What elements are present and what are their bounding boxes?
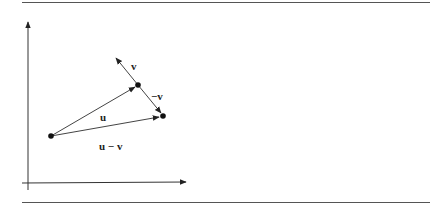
- label-v: v: [131, 60, 137, 72]
- label-u: u: [100, 111, 106, 123]
- point-u-minus-v-tip: [160, 113, 166, 119]
- vector-diagram: v −v u u − v: [0, 0, 430, 205]
- x-axis: [22, 182, 186, 183]
- point-u-tip: [135, 82, 141, 88]
- labels: v −v u u − v: [99, 60, 163, 152]
- label-neg-v: −v: [151, 90, 163, 102]
- point-tail: [48, 133, 54, 139]
- label-u-minus-v: u − v: [99, 140, 123, 152]
- axes: [22, 22, 186, 190]
- points: [48, 82, 166, 139]
- vectors: [51, 58, 161, 136]
